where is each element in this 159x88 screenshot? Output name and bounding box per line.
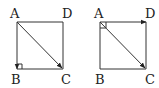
right-angle-mark-b bbox=[17, 64, 22, 69]
label-a: A bbox=[9, 6, 20, 21]
label-d: D bbox=[62, 6, 72, 21]
vector-ac bbox=[17, 22, 62, 68]
label-a: A bbox=[93, 6, 104, 21]
vector-diagram: A D B C A D B C bbox=[0, 0, 159, 88]
label-b: B bbox=[95, 72, 105, 87]
label-c: C bbox=[61, 72, 71, 87]
vector-ac bbox=[100, 22, 145, 68]
label-c: C bbox=[145, 72, 155, 87]
label-d: D bbox=[145, 6, 155, 21]
left-figure: A D B C bbox=[9, 6, 72, 87]
right-figure: A D B C bbox=[93, 6, 155, 87]
label-b: B bbox=[11, 72, 21, 87]
